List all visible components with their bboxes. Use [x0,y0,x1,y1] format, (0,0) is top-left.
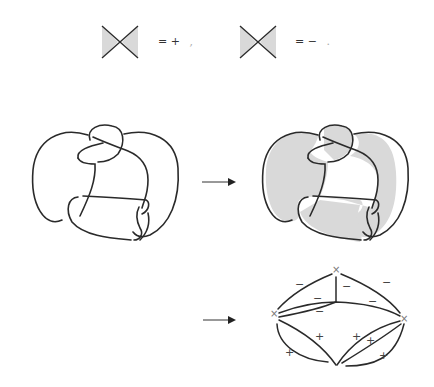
negative-crossing-label: = − . [295,35,330,48]
positive-equation: = + [158,35,180,48]
edge-sign-minus: − [313,292,322,305]
edge-sign-minus: − [368,295,377,308]
vertex-top: × [332,264,340,275]
edge-sign-minus: − [342,280,351,293]
edge-sign-plus: + [379,349,388,362]
edge-sign-plus: + [366,334,375,347]
positive-suffix: , [189,35,193,48]
positive-crossing-icon [102,26,138,58]
negative-equation: = − [295,35,317,48]
vertex-right: × [400,313,408,324]
knot-figure [0,0,434,387]
edge-sign-plus: + [352,330,361,343]
arrow-2 [203,316,236,324]
knot-diagram [33,125,179,240]
shaded-knot-diagram [263,125,409,242]
edge-sign-plus: + [285,346,294,359]
arrow-1 [202,178,236,186]
edge-sign-plus: + [315,330,324,343]
edge-sign-minus: − [295,278,304,291]
vertex-left: × [270,308,278,319]
negative-suffix: . [326,35,330,48]
positive-crossing-label: = + , [158,35,193,48]
edge-sign-minus: − [382,276,391,289]
edge-sign-minus: − [315,305,324,318]
negative-crossing-icon [240,26,276,58]
